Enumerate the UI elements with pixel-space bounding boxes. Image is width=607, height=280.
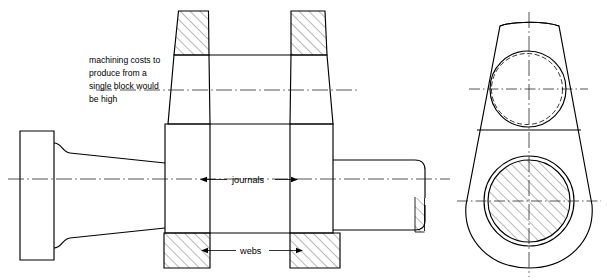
right-web-upper [290, 55, 333, 124]
webs-callout: webs [201, 246, 303, 256]
machining-note-line-4: be high [89, 94, 117, 104]
technical-drawing-canvas: machining costs to produce from a single… [0, 0, 607, 280]
machining-note-line-3: single block would [89, 81, 159, 91]
end-view [457, 12, 601, 277]
journals-label: journals [231, 175, 265, 185]
journals-callout: journals [200, 175, 298, 185]
journals-right-arrow [291, 177, 298, 182]
right-output-shaft [333, 160, 425, 230]
webs-label: webs [239, 246, 262, 256]
crankshaft-engineering-drawing: machining costs to produce from a single… [0, 0, 607, 280]
tapered-main-shaft [54, 143, 165, 248]
right-journal [290, 124, 333, 233]
machining-note: machining costs to produce from a single… [89, 55, 160, 104]
left-web-upper [168, 55, 210, 124]
machining-note-line-1: machining costs to [89, 55, 160, 65]
left-flange [20, 131, 54, 260]
right-web-top-section [291, 11, 327, 55]
crank-pin [209, 55, 291, 124]
journals-left-arrow [200, 177, 207, 182]
shaft-break-section [415, 197, 425, 232]
left-web-top-section [174, 11, 209, 55]
machining-note-line-2: produce from a [89, 68, 147, 78]
